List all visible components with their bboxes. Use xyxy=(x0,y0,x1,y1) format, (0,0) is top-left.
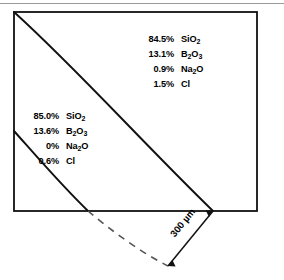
composition-formula: SiO2 xyxy=(66,110,85,125)
composition-row: 0% Na2O xyxy=(25,140,88,155)
composition-row: 85.0% SiO2 xyxy=(25,110,88,125)
composition-row: 0.9% Na2O xyxy=(140,63,203,78)
composition-row: 13.6% B2O3 xyxy=(25,125,88,140)
composition-percent: 84.5% xyxy=(140,33,181,46)
composition-row: 0.6% Cl xyxy=(25,155,88,168)
composition-formula: Na2O xyxy=(66,140,88,155)
composition-formula: Na2O xyxy=(181,63,203,78)
lower-composition-label: 85.0% SiO2 13.6% B2O3 0% Na2O 0.6% Cl xyxy=(25,110,88,168)
composition-percent: 0.9% xyxy=(140,63,181,76)
composition-formula: SiO2 xyxy=(181,33,200,48)
dimension-arrowhead-lower xyxy=(168,260,176,267)
composition-percent: 0% xyxy=(25,140,66,153)
composition-formula: Cl xyxy=(181,78,190,91)
composition-percent: 0.6% xyxy=(25,155,66,168)
composition-row: 84.5% SiO2 xyxy=(140,33,203,48)
composition-formula: B2O3 xyxy=(181,48,202,63)
composition-percent: 13.6% xyxy=(25,125,66,138)
composition-formula: Cl xyxy=(66,155,75,168)
composition-formula: B2O3 xyxy=(66,125,87,140)
diffusion-profile-figure: 84.5% SiO2 13.1% B2O3 0.9% Na2O 1.5% Cl … xyxy=(0,0,284,280)
composition-percent: 13.1% xyxy=(140,48,181,61)
dashed-projection-curve xyxy=(88,211,168,266)
composition-row: 1.5% Cl xyxy=(140,78,203,91)
composition-row: 13.1% B2O3 xyxy=(140,48,203,63)
composition-percent: 1.5% xyxy=(140,78,181,91)
composition-percent: 85.0% xyxy=(25,110,66,123)
upper-composition-label: 84.5% SiO2 13.1% B2O3 0.9% Na2O 1.5% Cl xyxy=(140,33,203,91)
